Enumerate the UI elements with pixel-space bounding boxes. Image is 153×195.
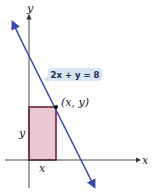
point-marker [54, 105, 58, 109]
diagram: 2x + y = 8 y x (x, y) y x [0, 0, 153, 195]
y-axis-label: y [27, 3, 33, 14]
rect-height-label: y [19, 128, 25, 139]
constraint-line [13, 23, 24, 46]
shaded-rectangle [29, 107, 56, 160]
x-axis-label: x [142, 155, 148, 166]
point-label: (x, y) [61, 97, 89, 108]
equation-label: 2x + y = 8 [48, 68, 102, 81]
rect-width-label: x [39, 163, 45, 174]
